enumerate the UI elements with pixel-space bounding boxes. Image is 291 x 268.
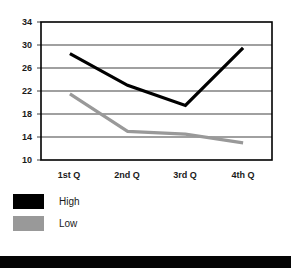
legend-item-high: High [13,193,163,215]
y-axis-tick-label-34: 34 [6,18,32,27]
series-line-low [70,94,243,143]
y-axis-tick-label-30: 30 [6,41,32,50]
legend-label-high: High [59,195,80,208]
y-axis-tick-label-14: 14 [6,133,32,142]
y-axis-tick-label-10: 10 [6,156,32,165]
x-axis-tick-label-3rd-q: 3rd Q [156,170,214,180]
legend-label-low: Low [59,217,77,230]
legend-swatch-low [13,216,44,231]
legend-item-low: Low [13,215,163,237]
y-axis-tick-label-22: 22 [6,87,32,96]
gridlines [41,45,272,137]
y-axis-tick-label-18: 18 [6,110,32,119]
series-line-high [70,48,243,106]
footer-bar [0,256,291,268]
chart-legend: High Low [13,193,163,237]
legend-swatch-high [13,194,44,209]
line-chart-figure: 34 30 26 22 18 14 10 1st Q 2nd Q 3rd Q 4… [0,0,291,268]
y-axis-tick-label-26: 26 [6,64,32,73]
x-axis-tick-label-4th-q: 4th Q [214,170,272,180]
x-axis-tick-label-2nd-q: 2nd Q [98,170,156,180]
x-axis-tick-label-1st-q: 1st Q [40,170,98,180]
